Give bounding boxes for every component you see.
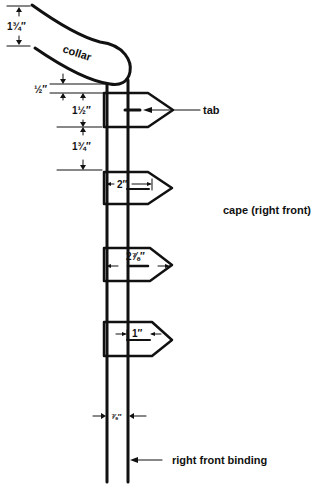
tab-height-label: 1½″ (72, 105, 91, 116)
tab-3-length: 2⅞″ (126, 251, 145, 262)
binding-label: right front binding (172, 454, 267, 466)
collar-label: collar (61, 42, 93, 63)
tab-2 (104, 172, 172, 204)
collar-shape (32, 5, 130, 85)
binding-width-label: ⅞″ (111, 412, 122, 421)
tab-4-length: 1″ (132, 328, 143, 339)
tab-label: tab (203, 104, 220, 116)
gap-dimension (50, 74, 106, 100)
binding-pointer (130, 457, 162, 463)
gap-label: ½″ (34, 84, 47, 95)
tab-spacing-label: 1¾″ (72, 141, 91, 152)
tab-2-length: 2″ (117, 179, 128, 190)
cape-binding-diagram: collar 1¾″ ½″ 1½″ 1¾″ (0, 0, 324, 494)
tab-height-dimension (57, 120, 102, 127)
cape-label: cape (right front) (223, 204, 311, 216)
collar-width-label: 1¾″ (7, 21, 26, 32)
